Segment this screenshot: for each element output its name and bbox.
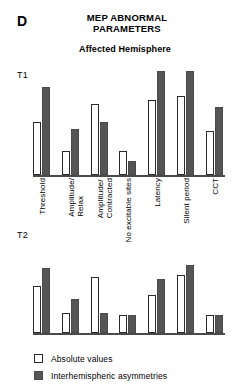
bar-group bbox=[62, 129, 79, 175]
bar bbox=[215, 315, 223, 333]
row-label-t2: T2 bbox=[17, 230, 28, 240]
bar bbox=[128, 315, 136, 333]
chart-legend: Absolute valuesInterhemispheric asymmetr… bbox=[34, 350, 167, 384]
bar bbox=[148, 100, 156, 175]
legend-label: Interhemispheric asymmetries bbox=[51, 371, 167, 381]
bar-group bbox=[91, 104, 108, 176]
x-axis-t2 bbox=[33, 333, 225, 335]
category-label: CCT bbox=[211, 178, 220, 195]
bar bbox=[215, 107, 223, 175]
category-label: Amplitude/Contracted bbox=[96, 178, 114, 218]
bar-group bbox=[33, 87, 50, 175]
bar bbox=[71, 299, 79, 333]
bar bbox=[33, 122, 41, 175]
bar bbox=[62, 313, 70, 333]
bar bbox=[100, 313, 108, 333]
bar-group bbox=[148, 279, 165, 333]
category-label: Amplitude/Relax bbox=[67, 178, 85, 217]
bar-group bbox=[33, 268, 50, 333]
category-label: Silent period bbox=[182, 178, 191, 224]
bar-groups-t2 bbox=[33, 243, 223, 333]
bar bbox=[206, 315, 214, 333]
bar bbox=[100, 122, 108, 175]
bar-group bbox=[206, 107, 223, 175]
bar-group bbox=[177, 265, 194, 333]
legend-item: Absolute values bbox=[34, 350, 167, 367]
bar bbox=[206, 131, 214, 175]
bar bbox=[186, 71, 194, 176]
bar-group bbox=[206, 315, 223, 333]
category-label: Latency bbox=[153, 178, 162, 207]
bar bbox=[71, 129, 79, 175]
bar bbox=[42, 87, 50, 175]
x-axis-t1 bbox=[33, 175, 225, 177]
bar bbox=[119, 315, 127, 333]
bar bbox=[128, 161, 136, 175]
row-label-t1: T1 bbox=[17, 70, 28, 80]
bar bbox=[177, 275, 185, 334]
page-title: MEP ABNORMAL PARAMETERS bbox=[52, 12, 202, 34]
bar bbox=[148, 295, 156, 333]
panel-letter: D bbox=[17, 13, 27, 29]
bar bbox=[186, 265, 194, 333]
bar bbox=[119, 151, 127, 175]
bar-group bbox=[62, 299, 79, 333]
bar bbox=[177, 96, 185, 175]
legend-swatch-solid bbox=[34, 371, 43, 380]
bar-groups-t1 bbox=[33, 65, 223, 175]
bar-group bbox=[91, 277, 108, 333]
bar-group bbox=[119, 151, 136, 175]
bar-group bbox=[148, 71, 165, 176]
bar bbox=[157, 71, 165, 176]
bar bbox=[91, 104, 99, 176]
category-labels: ThresholdAmplitude/RelaxAmplitude/Contra… bbox=[33, 178, 223, 240]
bar-group bbox=[119, 315, 136, 333]
legend-item: Interhemispheric asymmetries bbox=[34, 367, 167, 384]
bar bbox=[33, 286, 41, 333]
page-subtitle: Affected Hemisphere bbox=[40, 44, 210, 54]
bar bbox=[157, 279, 165, 333]
legend-swatch-open bbox=[34, 354, 43, 363]
legend-label: Absolute values bbox=[51, 354, 113, 364]
bar bbox=[62, 151, 70, 175]
bar bbox=[42, 268, 50, 333]
bar bbox=[91, 277, 99, 333]
category-label: Threshold bbox=[38, 178, 47, 214]
bar-group bbox=[177, 71, 194, 176]
category-label: No excitable sites bbox=[124, 178, 133, 243]
